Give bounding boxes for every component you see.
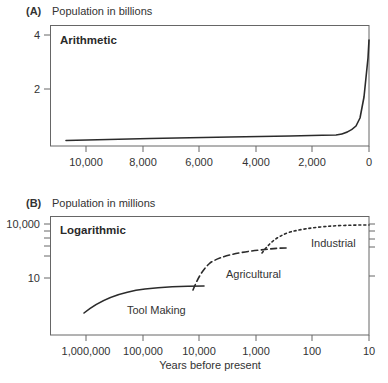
era-labels: Tool MakingAgriculturalIndustrial [127, 237, 356, 316]
panel-a-y-axis: 42 [34, 29, 50, 95]
panel-a-x-axis: 10,0008,0006,0004,0002,0000 [69, 146, 372, 168]
x-tick-label: 10,000 [182, 345, 216, 357]
x-tick-label: 4,000 [242, 156, 270, 168]
y-tick-label: 10 [28, 272, 40, 284]
era-label: Industrial [311, 237, 356, 249]
panel-b: (B) Population in millions Logarithmic 1… [6, 197, 375, 371]
panel-a-title: Population in billions [52, 5, 153, 17]
x-tick-label: 0 [366, 156, 372, 168]
x-tick-label: 100 [303, 345, 321, 357]
x-tick-label: 1,000,000 [62, 345, 111, 357]
panel-b-title: Population in millions [52, 197, 156, 209]
panel-a-population-curve [66, 40, 369, 141]
panel-a: (A) Population in billions Arithmetic 42… [26, 5, 372, 168]
era-label: Agricultural [226, 268, 281, 280]
panel-b-right-axis [369, 224, 375, 276]
panel-a-scale-label: Arithmetic [60, 34, 117, 46]
y-tick-label: 4 [34, 29, 40, 41]
x-tick-label: 2,000 [298, 156, 326, 168]
panel-a-letter: (A) [26, 5, 42, 17]
panel-b-y-axis: 10,00010 [6, 218, 50, 284]
x-tick-label: 10,000 [69, 156, 103, 168]
x-tick-label: 100,000 [123, 345, 163, 357]
panel-b-x-axis: 1,000,000100,00010,0001,00010010 [62, 335, 376, 357]
panel-b-scale-label: Logarithmic [60, 224, 126, 236]
panel-b-letter: (B) [26, 197, 42, 209]
x-tick-label: 6,000 [185, 156, 213, 168]
y-tick-label: 10,000 [6, 218, 40, 230]
figure: (A) Population in billions Arithmetic 42… [0, 0, 388, 383]
y-tick-label: 2 [34, 83, 40, 95]
x-tick-label: 10 [363, 345, 375, 357]
x-tick-label: 8,000 [129, 156, 157, 168]
era-label: Tool Making [127, 304, 186, 316]
panel-b-x-axis-title: Years before present [159, 359, 261, 371]
x-tick-label: 1,000 [242, 345, 270, 357]
